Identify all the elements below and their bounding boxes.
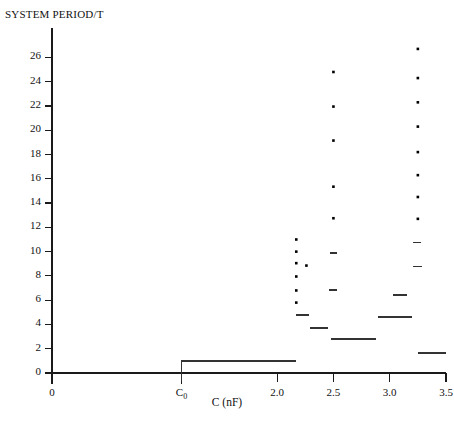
x-tick-label: 2.5 <box>311 386 355 398</box>
x-tick-label: 2.0 <box>255 386 299 398</box>
y-tick-label: 18 <box>8 147 41 159</box>
x-tick-label: 0 <box>30 386 74 398</box>
data-point <box>417 125 420 128</box>
data-point <box>295 275 298 278</box>
data-point <box>295 289 298 292</box>
data-point <box>417 48 420 51</box>
period-point-markers <box>295 48 419 304</box>
x-tick-label: 3.0 <box>368 386 412 398</box>
y-tick-label: 22 <box>8 98 41 110</box>
y-tick-label: 14 <box>8 195 41 207</box>
data-point <box>417 101 420 104</box>
chart-figure: SYSTEM PERIOD/T C (nF) 02468101214161820… <box>0 0 454 438</box>
y-tick-label: 20 <box>8 122 41 134</box>
data-point <box>332 185 335 188</box>
x-tick-label: 3.5 <box>424 386 454 398</box>
stable-window-segments <box>181 243 446 381</box>
y-tick-label: 12 <box>8 219 41 231</box>
y-tick-label: 6 <box>8 292 41 304</box>
data-point <box>305 264 308 267</box>
data-point <box>295 262 298 265</box>
y-axis-title: SYSTEM PERIOD/T <box>5 8 104 20</box>
axes-layer <box>45 28 446 384</box>
data-point <box>417 77 420 80</box>
x-tick-label: C0 <box>159 386 203 401</box>
data-point <box>295 301 298 304</box>
y-tick-label: 26 <box>8 49 41 61</box>
data-point <box>332 139 335 142</box>
window-segment <box>181 361 296 381</box>
y-tick-label: 8 <box>8 268 41 280</box>
data-point <box>417 174 420 177</box>
data-point <box>332 217 335 220</box>
data-point <box>332 105 335 108</box>
data-point <box>295 250 298 253</box>
data-point <box>417 151 420 154</box>
y-tick-label: 10 <box>8 244 41 256</box>
y-tick-label: 16 <box>8 171 41 183</box>
data-point <box>332 71 335 74</box>
y-tick-label: 2 <box>8 341 41 353</box>
y-tick-label: 4 <box>8 316 41 328</box>
data-point <box>417 196 420 199</box>
data-point <box>295 238 298 241</box>
data-point <box>417 218 420 221</box>
y-tick-label: 0 <box>8 365 41 377</box>
plot-area <box>0 0 454 438</box>
y-tick-label: 24 <box>8 74 41 86</box>
